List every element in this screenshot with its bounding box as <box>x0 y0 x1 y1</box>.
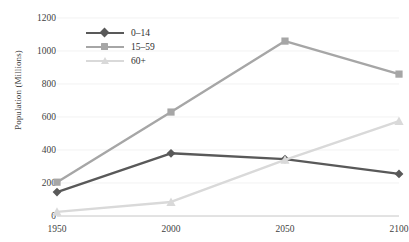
legend-item[interactable]: 15–59 <box>86 41 155 52</box>
data-point-marker <box>281 38 288 45</box>
legend-item[interactable]: 60+ <box>86 55 155 66</box>
data-point-marker <box>53 179 60 186</box>
data-point-marker <box>53 188 62 197</box>
data-point-marker <box>394 117 403 126</box>
legend-marker-icon <box>101 57 109 64</box>
legend-marker-icon <box>101 43 108 50</box>
series-line <box>57 153 399 192</box>
legend-swatch <box>86 41 124 52</box>
legend-item[interactable]: 0–14 <box>86 27 155 38</box>
data-point-marker <box>167 108 174 115</box>
legend-label: 0–14 <box>131 28 150 38</box>
legend-marker-icon <box>100 28 110 38</box>
data-point-marker <box>395 71 402 78</box>
data-point-marker <box>395 170 404 179</box>
legend-swatch <box>86 27 124 38</box>
legend-label: 60+ <box>131 56 146 66</box>
legend-swatch <box>86 55 124 66</box>
chart-legend: 0–1415–5960+ <box>86 27 155 66</box>
legend-label: 15–59 <box>131 42 155 52</box>
